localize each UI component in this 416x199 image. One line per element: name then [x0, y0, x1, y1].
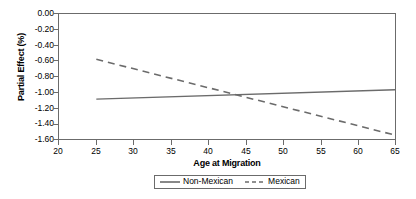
x-tick-mark [246, 140, 247, 145]
plot-area [58, 13, 396, 140]
x-tick-mark [171, 140, 172, 145]
legend-swatch-solid-line-icon [160, 178, 180, 186]
x-tick-mark [358, 140, 359, 145]
y-axis-tick-labels: 0.00 -0.20 -0.40 -0.60 -0.80 -1.00 -1.20… [18, 0, 54, 199]
x-tick-label: 30 [118, 146, 148, 156]
series-line-non-mexican [96, 90, 395, 99]
legend-swatch-dashed-line-icon [245, 178, 265, 186]
y-tick-label: -0.40 [18, 41, 54, 50]
x-tick-mark [58, 140, 59, 145]
x-tick-label: 25 [81, 146, 111, 156]
x-tick-label: 35 [156, 146, 186, 156]
y-tick-label: -0.20 [18, 25, 54, 34]
x-tick-label: 65 [380, 146, 410, 156]
y-tick-label: -0.60 [18, 56, 54, 65]
legend-label: Mexican [268, 177, 300, 187]
y-tick-label: 0.00 [18, 9, 54, 18]
x-tick-mark [133, 140, 134, 145]
x-tick-mark [395, 140, 396, 145]
chart-legend: Non-Mexican Mexican [154, 175, 306, 189]
x-tick-label: 60 [343, 146, 373, 156]
legend-item-mexican: Mexican [245, 177, 300, 187]
y-tick-label: -1.00 [18, 88, 54, 97]
y-tick-label: -1.40 [18, 119, 54, 128]
x-tick-mark [96, 140, 97, 145]
y-tick-label: -1.60 [18, 135, 54, 144]
x-tick-label: 45 [231, 146, 261, 156]
y-tick-label: -0.80 [18, 72, 54, 81]
legend-label: Non-Mexican [183, 177, 233, 187]
x-axis-label: Age at Migration [58, 158, 396, 168]
chart-figure: Partial Effect (%) 0.00 -0.20 -0.40 -0.6… [0, 0, 416, 199]
x-tick-label: 40 [193, 146, 223, 156]
legend-item-non-mexican: Non-Mexican [160, 177, 233, 187]
x-tick-mark [283, 140, 284, 145]
series-canvas [59, 14, 395, 139]
x-tick-label: 50 [268, 146, 298, 156]
x-tick-mark [321, 140, 322, 145]
x-tick-label: 55 [306, 146, 336, 156]
x-tick-mark [208, 140, 209, 145]
x-tick-label: 20 [43, 146, 73, 156]
y-tick-label: -1.20 [18, 104, 54, 113]
